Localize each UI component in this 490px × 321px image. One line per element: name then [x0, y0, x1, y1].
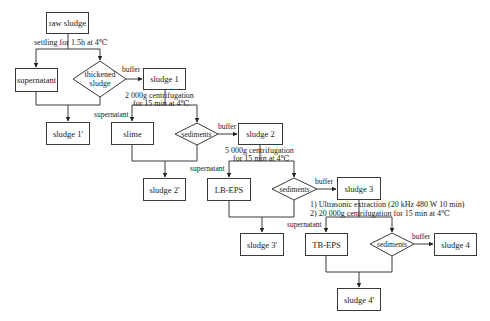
edge-label-buffer-1: buffer — [122, 66, 140, 74]
edge-label-buffer-4: buffer — [412, 233, 430, 241]
node-sludge-4: sludge 4 — [434, 233, 477, 256]
note-extraction-line2: 2) 20 000g centrifugation for 15 min at … — [310, 209, 450, 218]
node-raw-sludge: raw sludge — [46, 12, 89, 34]
node-supernatant: supernatant — [15, 68, 58, 92]
edge-label-buffer-2: buffer — [218, 123, 236, 131]
edge-label-buffer-3: buffer — [315, 178, 333, 186]
edge-label-supernatant-b: supernatant — [190, 165, 225, 173]
note-centrifuge-1-line2: for 15 min at 4℃ — [133, 99, 190, 108]
node-sludge-4-prime: sludge 4' — [337, 288, 381, 311]
edge-label-supernatant-a: supernatant — [94, 111, 129, 119]
label-thickened-sludge: thickened sludge — [78, 66, 122, 92]
node-slime: slime — [111, 122, 154, 145]
label-sediments-3: sediments — [370, 238, 414, 250]
node-sludge-2: sludge 2 — [238, 123, 283, 145]
edge-label-supernatant-c: supernatant — [287, 221, 322, 229]
node-sludge-3: sludge 3 — [337, 177, 381, 200]
node-tb-eps: TB-EPS — [305, 233, 348, 256]
node-sludge-1: sludge 1 — [143, 68, 186, 90]
label-sediments-1: sediments — [175, 128, 218, 140]
note-settling: settling for 1.5h at 4℃ — [34, 38, 108, 47]
node-sludge-1-prime: sludge 1' — [46, 122, 90, 145]
note-centrifuge-2-line2: for 15 min at 4℃ — [233, 154, 290, 163]
node-sludge-3-prime: sludge 3' — [240, 233, 284, 256]
node-lb-eps: LB-EPS — [207, 178, 251, 201]
label-sediments-2: sediments — [272, 183, 317, 195]
note-extraction-line1: 1) Ultrasonic extraction (20 kHz 480 W 1… — [310, 200, 464, 209]
node-sludge-2-prime: sludge 2' — [143, 178, 186, 201]
